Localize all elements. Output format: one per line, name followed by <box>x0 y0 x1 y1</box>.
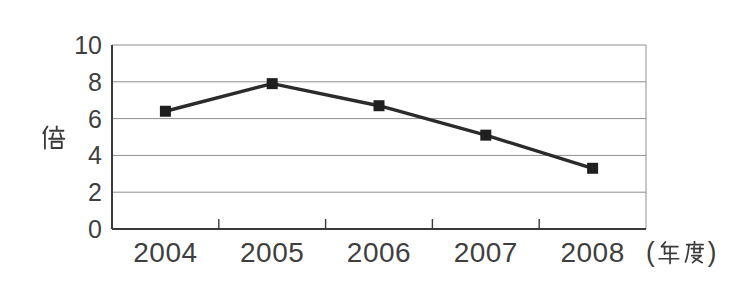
y-tick-label-4: 4 <box>88 141 102 169</box>
line-chart: 024681020042005200620072008 <box>0 0 751 286</box>
y-tick-label-0: 0 <box>88 215 102 243</box>
x-tick-label-2004: 2004 <box>133 237 197 268</box>
x-tick-label-2005: 2005 <box>240 237 304 268</box>
x-tick-label-2008: 2008 <box>560 237 624 268</box>
y-tick-label-2: 2 <box>88 178 102 206</box>
x-tick-label-2007: 2007 <box>454 237 518 268</box>
data-point-2007 <box>480 130 491 141</box>
x-tick-label-2006: 2006 <box>347 237 411 268</box>
kanji-nen-glyph <box>656 240 681 265</box>
paren-open: ( <box>646 237 655 266</box>
data-point-2005 <box>267 78 278 89</box>
y-tick-label-6: 6 <box>88 105 102 133</box>
y-tick-label-8: 8 <box>88 68 102 96</box>
x-axis-unit-label: ( ) <box>646 238 716 266</box>
paren-close: ) <box>708 237 717 266</box>
data-point-2004 <box>160 106 171 117</box>
chart-figure: 024681020042005200620072008 ( <box>0 0 751 286</box>
data-point-2006 <box>374 100 385 111</box>
y-tick-label-10: 10 <box>74 31 102 59</box>
data-point-2008 <box>587 163 598 174</box>
kanji-bai-glyph <box>39 124 66 151</box>
kanji-do-glyph <box>682 240 707 265</box>
y-axis-title <box>39 124 66 151</box>
